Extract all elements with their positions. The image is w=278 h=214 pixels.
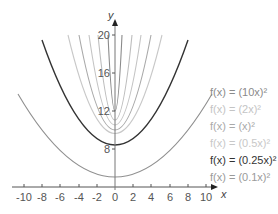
y-axis-label: y	[107, 9, 115, 21]
x-tick-label: 8	[185, 191, 191, 203]
legend-item: f(x) = (0.25x)²	[210, 152, 276, 169]
x-tick-label: -8	[37, 191, 47, 203]
legend-item: f(x) = (10x)²	[210, 84, 276, 101]
y-tick-label: 12	[98, 105, 110, 117]
x-axis: -10 -8 -6 -4 -2 0 2 4 6 8 10 x	[12, 184, 227, 203]
y-tick-label: 8	[104, 143, 110, 155]
legend-item: f(x) = (0.1x)²	[210, 169, 276, 186]
legend-item: f(x) = (2x)²	[210, 101, 276, 118]
x-tick-label: -6	[55, 191, 65, 203]
y-tick-label: 16	[98, 67, 110, 79]
x-axis-label: x	[220, 188, 227, 200]
x-tick-label: 2	[130, 191, 136, 203]
x-tick-label: 4	[148, 191, 154, 203]
x-tick-label: -4	[74, 191, 84, 203]
x-tick-label: -10	[16, 191, 32, 203]
x-tick-label: -2	[92, 191, 102, 203]
x-tick-label: 0	[112, 191, 118, 203]
legend-item: f(x) = (0.5x)²	[210, 135, 276, 152]
x-tick-label: 10	[200, 191, 212, 203]
legend: f(x) = (10x)² f(x) = (2x)² f(x) = (x)² f…	[210, 84, 276, 186]
y-tick-label: 20	[98, 29, 110, 41]
legend-item: f(x) = (x)²	[210, 118, 276, 135]
x-tick-label: 6	[167, 191, 173, 203]
